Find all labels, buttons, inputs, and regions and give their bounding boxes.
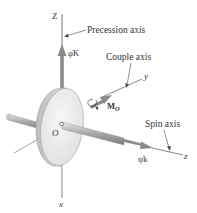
rim-leader-line [14,138,40,153]
precession-rate-label: φ̇K [68,48,80,58]
precession-vector-arrow [58,44,67,94]
z-axis-label: z [183,151,188,161]
y-axis-label: y [143,71,148,81]
y-axis [100,79,142,98]
precession-axis-label: Precession axis [87,25,146,35]
z-axis [152,148,183,155]
spin-vector-arrow [124,139,153,149]
spin-axis-label: Spin axis [145,119,180,129]
moment-label: MO [107,101,120,112]
gyroscope-diagram: Z φ̇K Precession axis Couple axis y x [0,0,197,213]
moment-label-subscript: O [115,105,120,112]
spin-rate-label: ψ̇k [138,154,148,164]
moment-label-main: M [107,101,115,111]
spin-callout-leader [164,130,171,151]
x-axis-label: x [58,199,63,209]
Z-axis-label: Z [52,11,58,21]
origin-point [60,122,64,126]
origin-label: O [52,128,59,138]
couple-axis-label: Couple axis [106,52,151,62]
precession-callout-leader [64,30,86,37]
